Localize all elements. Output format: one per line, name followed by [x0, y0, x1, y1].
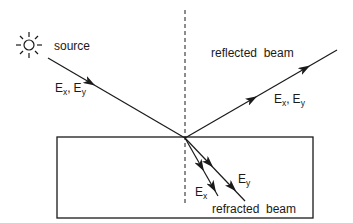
reflected-field-label: Ex,Ey	[274, 92, 306, 108]
refracted-beam-label: refracted beam	[212, 202, 296, 216]
incident-field-label: Ex,Ey	[55, 81, 87, 97]
refracted-ey-label: Ey	[238, 172, 251, 188]
incident-beam	[48, 58, 185, 138]
sun-icon	[16, 32, 42, 58]
refracted-ex-label: Ex	[195, 185, 208, 201]
source-label: source	[54, 39, 90, 53]
reflected-beam	[185, 50, 337, 138]
reflected-beam-label: reflected beam	[211, 46, 294, 60]
optics-diagram: source Ex,Ey reflected beam Ex,Ey Ex Ey …	[0, 0, 353, 223]
